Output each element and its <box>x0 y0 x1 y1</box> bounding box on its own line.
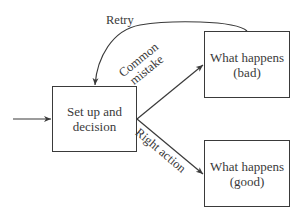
good-node-line2: (good) <box>230 174 265 189</box>
setup-node-line1: Set up and <box>67 104 122 119</box>
bad-outcome-node: What happens (bad) <box>204 31 290 98</box>
retry-label: Retry <box>106 14 134 27</box>
bad-node-line2: (bad) <box>233 65 260 80</box>
bad-node-line1: What happens <box>210 50 284 65</box>
good-node-line1: What happens <box>210 159 284 174</box>
good-outcome-node: What happens (good) <box>204 140 290 207</box>
setup-node-line2: decision <box>73 119 116 134</box>
setup-decision-node: Set up and decision <box>52 86 137 152</box>
